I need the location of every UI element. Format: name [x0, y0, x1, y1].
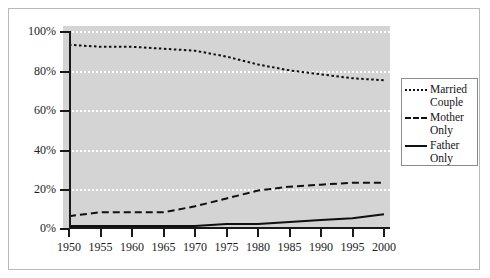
y-axis-label-20: 20%: [4, 183, 56, 195]
legend-label-married-couple: Married Couple: [427, 83, 467, 108]
y-axis-label-60: 60%: [4, 104, 56, 116]
legend-line-dashed-icon: [405, 112, 427, 124]
legend-label-line1: Father: [430, 139, 459, 151]
x-tick-1960: [131, 229, 133, 237]
legend-item-married-couple[interactable]: Married Couple: [405, 83, 477, 108]
series-married-couple: [69, 45, 384, 80]
y-tick-20: [60, 189, 70, 191]
x-tick-1985: [289, 229, 291, 237]
x-tick-1990: [320, 229, 322, 237]
x-tick-1975: [226, 229, 228, 237]
legend-item-father-only[interactable]: Father Only: [405, 139, 477, 164]
y-axis-label-80: 80%: [4, 65, 56, 77]
y-tick-100: [60, 31, 70, 33]
x-tick-1950: [68, 229, 70, 237]
legend-item-mother-only[interactable]: Mother Only: [405, 111, 477, 136]
y-axis-line: [69, 31, 71, 229]
legend-line-dotted-icon: [405, 84, 427, 96]
y-tick-60: [60, 110, 70, 112]
y-tick-40: [60, 150, 70, 152]
legend-label-mother-only: Mother Only: [427, 111, 464, 136]
legend-label-line1: Married: [430, 83, 467, 95]
series-father-only: [69, 214, 384, 226]
series-mother-only: [69, 183, 384, 216]
y-axis-label-100: 100%: [4, 25, 56, 37]
legend-label-line2: Couple: [430, 96, 463, 108]
x-tick-1965: [163, 229, 165, 237]
x-tick-1970: [194, 229, 196, 237]
series-layer: [63, 26, 390, 229]
legend: Married Couple Mother Only Father Only: [401, 78, 478, 166]
legend-label-father-only: Father Only: [427, 139, 459, 164]
x-tick-1995: [352, 229, 354, 237]
legend-label-line2: Only: [430, 124, 453, 136]
chart-figure: 100% 80% 60% 40% 20% 0% 1950195519601965…: [0, 0, 490, 278]
x-axis-line: [69, 227, 390, 229]
x-tick-1980: [257, 229, 259, 237]
y-tick-80: [60, 71, 70, 73]
y-axis-label-0: 0%: [4, 222, 56, 234]
legend-label-line2: Only: [430, 152, 453, 164]
y-axis-label-40: 40%: [4, 144, 56, 156]
legend-line-solid-icon: [405, 140, 427, 152]
x-tick-2000: [383, 229, 385, 237]
legend-label-line1: Mother: [430, 111, 464, 123]
x-axis-label-2000: 2000: [361, 241, 407, 253]
x-tick-1955: [100, 229, 102, 237]
